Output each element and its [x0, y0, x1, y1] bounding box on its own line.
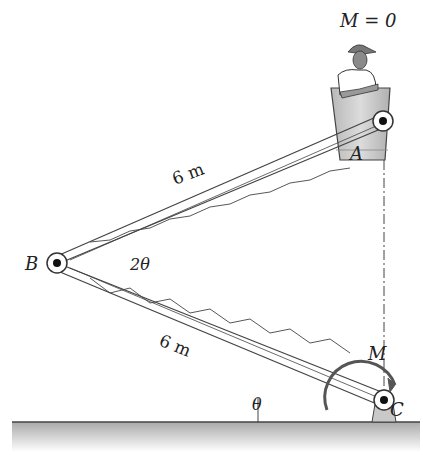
lower-boom [57, 263, 384, 407]
label-angle-b: 2θ [129, 255, 150, 274]
label-moment: M [367, 343, 387, 364]
ground [12, 422, 420, 452]
label-lower-length: 6 m [157, 330, 194, 361]
boom-lift-diagram: M = 0 A B C M 2θ θ 6 m 6 m [0, 0, 423, 455]
label-c: C [390, 399, 404, 420]
label-upper-length: 6 m [169, 158, 206, 188]
pin-b [47, 253, 67, 273]
equation-label: M = 0 [339, 10, 396, 31]
label-a: A [348, 143, 363, 164]
angle-arc-theta [258, 352, 263, 400]
upper-boom [57, 114, 383, 263]
label-angle-c: θ [252, 395, 262, 414]
pin-a [373, 111, 393, 131]
label-b: B [24, 253, 38, 274]
worker [338, 45, 378, 98]
